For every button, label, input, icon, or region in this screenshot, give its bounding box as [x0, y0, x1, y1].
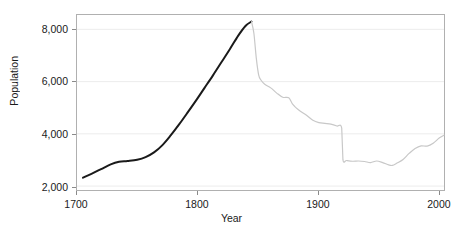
x-tick-label-1700: 1700 — [51, 199, 101, 210]
x-axis-title: Year — [0, 212, 463, 224]
y-tick-label-6000: 6,000 — [20, 76, 68, 87]
y-tick-mark-8000 — [72, 29, 76, 30]
series-line-post_famine — [251, 22, 444, 166]
y-tick-mark-6000 — [72, 81, 76, 82]
y-tick-mark-4000 — [72, 134, 76, 135]
x-tick-label-1900: 1900 — [293, 199, 343, 210]
y-axis-title: Population — [8, 56, 22, 106]
y-tick-label-2000: 2,000 — [20, 182, 68, 193]
y-tick-mark-2000 — [72, 187, 76, 188]
x-tick-label-2000: 2000 — [414, 199, 463, 210]
x-tick-mark-1700 — [76, 191, 77, 195]
y-tick-label-4000: 4,000 — [20, 129, 68, 140]
x-tick-mark-1900 — [318, 191, 319, 195]
x-tick-mark-1800 — [197, 191, 198, 195]
x-tick-label-1800: 1800 — [172, 199, 222, 210]
series-line-pre_famine — [83, 22, 251, 178]
plot-area — [76, 14, 445, 191]
x-tick-mark-2000 — [439, 191, 440, 195]
data-series-layer — [77, 15, 444, 190]
y-tick-label-8000: 8,000 — [20, 24, 68, 35]
population-chart-figure: 2,0004,0006,0008,000 1700180019002000 Ye… — [0, 0, 463, 232]
